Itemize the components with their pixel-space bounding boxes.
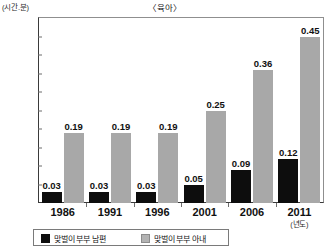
bar-value-label: 0.36 (254, 58, 273, 69)
x-axis-unit-label: (년도) (290, 218, 308, 229)
legend-item-husband: 맞벌이 부부 남편 (41, 233, 106, 244)
bar-wife-2001 (206, 111, 226, 204)
bar-value-label: 0.03 (42, 180, 61, 191)
x-axis-tick-mark (86, 203, 87, 207)
x-axis-tick-mark (228, 203, 229, 207)
bar-husband-2011 (278, 159, 298, 203)
bar-value-label: 0.45 (301, 25, 320, 36)
bar-wife-1996 (158, 133, 178, 203)
legend-item-wife: 맞벌이 부부 아내 (141, 233, 206, 244)
bar-value-label: 0.19 (112, 121, 131, 132)
bar-husband-2001 (184, 185, 204, 204)
x-axis-tick-mark (134, 203, 135, 207)
legend-swatch-icon-husband (41, 234, 50, 243)
chart-title: 〈육아〉 (0, 1, 330, 13)
bar-wife-2006 (253, 70, 273, 203)
x-axis-tick-label: 1986 (50, 206, 74, 218)
legend-swatch-icon-wife (141, 234, 150, 243)
bar-wife-1986 (64, 133, 84, 203)
bar-value-label: 0.03 (90, 180, 109, 191)
legend-label-wife: 맞벌이 부부 아내 (154, 233, 206, 244)
x-axis-tick-mark (181, 203, 182, 207)
bar-husband-1991 (89, 192, 109, 203)
x-axis-tick-mark (276, 203, 277, 207)
bar-husband-1996 (136, 192, 156, 203)
x-axis-tick-label: 2001 (192, 206, 216, 218)
bar-value-label: 0.19 (159, 121, 178, 132)
bar-value-label: 0.03 (137, 180, 156, 191)
bar-wife-1991 (111, 133, 131, 203)
legend-label-husband: 맞벌이 부부 남편 (54, 233, 106, 244)
bar-wife-2011 (300, 37, 320, 204)
bar-husband-2006 (231, 170, 251, 203)
legend: 맞벌이 부부 남편 맞벌이 부부 아내 (33, 229, 229, 246)
x-axis-tick-label: 1991 (98, 206, 122, 218)
bar-value-label: 0.19 (64, 121, 83, 132)
bars-layer: 0.030.190.030.190.030.190.050.250.090.36… (39, 18, 323, 203)
bar-husband-1986 (42, 192, 62, 203)
bar-chart: (시간.분) 〈육아〉 00.050.10.150.20.250.30.350.… (0, 0, 330, 248)
x-axis-tick-label: 1996 (145, 206, 169, 218)
x-axis-tick-label: 2006 (240, 206, 264, 218)
x-axis-tick-label: 2011 (287, 206, 311, 218)
bar-value-label: 0.12 (279, 147, 298, 158)
bar-value-label: 0.25 (206, 99, 225, 110)
bar-value-label: 0.09 (232, 158, 251, 169)
bar-value-label: 0.05 (184, 173, 203, 184)
